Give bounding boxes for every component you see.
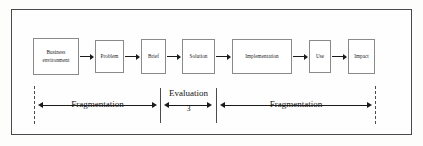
stage-label-problem: Problem [101, 53, 119, 61]
stage-box-problem: Problem [95, 40, 124, 73]
measure-label-fragmentation-left: Fragmentation [47, 99, 148, 109]
arrow-head-icon [304, 54, 308, 60]
stage-box-implementation: Implementation [232, 39, 292, 74]
stage-box-solution: Solution [182, 39, 215, 74]
arrow-shaft [125, 56, 136, 57]
arrow-implementation-to-use [293, 52, 308, 61]
measure-label-evaluation: Evaluation [160, 88, 217, 98]
diagram-canvas: Business environment Problem Brief Solut… [0, 0, 423, 146]
arrow-shaft [216, 56, 227, 57]
arrow-brief-to-solution [167, 52, 181, 61]
stage-box-impact: Impact [348, 39, 375, 74]
arrow-head-icon [177, 54, 181, 60]
arrow-head-icon [343, 54, 347, 60]
stage-box-business-environment: Business environment [33, 38, 79, 75]
stage-box-use: Use [309, 40, 331, 73]
stage-label-implementation: Implementation [245, 53, 279, 61]
stage-label-impact: Impact [354, 53, 369, 61]
arrow-business-environment-to-problem [80, 52, 94, 61]
stage-box-brief: Brief [141, 39, 166, 74]
arrow-solution-to-implementation [216, 52, 231, 61]
arrow-head-icon [90, 54, 94, 60]
stage-label-business-environment-line2: environment [43, 57, 70, 65]
stage-label-use: Use [316, 53, 324, 61]
arrow-head-right-icon [152, 102, 157, 108]
arrow-problem-to-brief [125, 52, 140, 61]
stage-label-business-environment-line1: Business [43, 49, 70, 57]
arrow-use-to-impact [332, 52, 347, 61]
arrow-head-icon [227, 54, 231, 60]
boundary-left-dashed-line [34, 86, 36, 124]
boundary-right-dashed-line [375, 86, 377, 124]
arrow-shaft [332, 56, 343, 57]
arrow-head-icon [136, 54, 140, 60]
stage-label-brief: Brief [148, 53, 159, 61]
arrow-head-right-icon [367, 102, 372, 108]
measure-sublabel-evaluation-number: 3 [160, 104, 217, 113]
measure-label-fragmentation-right: Fragmentation [243, 99, 349, 109]
arrow-shaft [80, 56, 90, 57]
arrow-shaft [293, 56, 304, 57]
stage-label-solution: Solution [190, 53, 208, 61]
arrow-shaft [167, 56, 177, 57]
